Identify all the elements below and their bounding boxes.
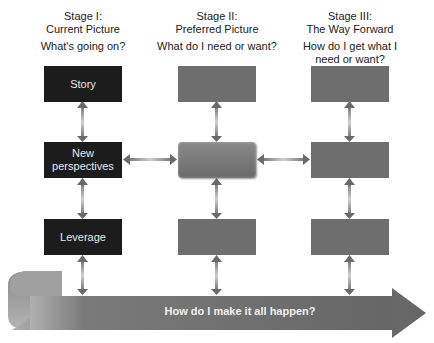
vertical-arrows [77,101,355,295]
box-leverage-label: Leverage [60,231,106,244]
box-stage3-middle [311,142,389,178]
box-leverage: Leverage [44,219,122,255]
box-stage3-top [311,66,389,102]
box-new-perspectives: New perspectives [44,142,122,178]
box-stage2-center [178,142,256,178]
box-stage2-top [178,66,256,102]
box-story-label: Story [70,78,96,91]
bottom-arrow-label: How do I make it all happen? [140,305,340,317]
box-new-perspectives-label: New perspectives [50,147,116,173]
box-stage2-bottom [178,219,256,255]
box-story: Story [44,66,122,102]
box-stage3-bottom [311,219,389,255]
